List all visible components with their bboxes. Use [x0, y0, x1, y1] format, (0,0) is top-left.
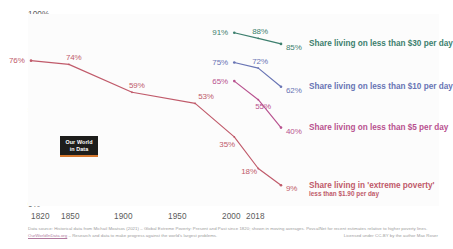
x-axis-tick-1950: 1950 — [168, 212, 187, 221]
series-vertex-marker — [257, 168, 259, 170]
footer-data-source: Data source: Historical data from Michai… — [28, 226, 438, 233]
series-vertex-marker — [257, 99, 259, 101]
data-point-label: 9% — [286, 184, 297, 193]
series-end-annotation-label: Share living on less than $5 per day — [309, 123, 448, 132]
data-point-label: 65% — [212, 77, 228, 86]
series-endpoint-marker — [233, 80, 236, 83]
series-end-annotation: Share living on less than $10 per day — [309, 82, 453, 91]
series-endpoint-marker — [280, 126, 283, 129]
x-axis-tick-2018: 2018 — [246, 212, 265, 221]
data-point-label: 75% — [212, 58, 228, 67]
x-axis-tick-1820: 1820 — [31, 212, 50, 221]
series-vertex-marker — [131, 91, 133, 93]
footer-second-line: OurWorldInData.org – Research and data t… — [28, 233, 438, 240]
series-endpoint-marker — [30, 59, 33, 62]
x-axis-tick-1900: 1900 — [114, 212, 133, 221]
logo-line-1: Our World — [65, 139, 92, 146]
data-point-label: 18% — [241, 167, 257, 176]
series-endpoint-marker — [280, 43, 283, 46]
series-vertex-marker — [233, 136, 235, 138]
data-point-label: 62% — [286, 86, 302, 95]
footer-license: Licensed under CC-BY by the author Max R… — [344, 233, 438, 240]
data-point-label: 35% — [219, 140, 235, 149]
data-point-label: 53% — [198, 92, 214, 101]
data-point-label: 40% — [286, 127, 302, 136]
series-end-annotation-label: Share living on less than $30 per day — [309, 39, 453, 48]
data-point-label: 59% — [129, 81, 145, 90]
data-point-label: 74% — [66, 53, 82, 62]
series-vertex-marker — [257, 67, 259, 69]
series-endpoint-marker — [280, 184, 283, 187]
series-endpoint-marker — [233, 31, 236, 34]
logo-line-2: in Data — [70, 146, 89, 153]
series-end-annotation-sublabel: less than $1.90 per day — [309, 190, 434, 197]
footer-attribution: OurWorldInData.org – Research and data t… — [28, 233, 217, 240]
our-world-in-data-logo: Our World in Data — [60, 136, 98, 157]
series-end-annotation: Share living on less than $5 per day — [309, 123, 448, 132]
series-end-annotation: Share living in 'extreme poverty'less th… — [309, 181, 434, 198]
data-point-label: 85% — [286, 43, 302, 52]
series-vertex-marker — [257, 37, 259, 39]
series-vertex-marker — [68, 63, 70, 65]
series-vertex-marker — [194, 103, 196, 105]
x-axis-tick-1850: 1850 — [61, 212, 80, 221]
series-end-annotation-label: Share living on less than $10 per day — [309, 82, 453, 91]
data-point-label: 72% — [252, 57, 268, 66]
data-point-label: 55% — [255, 102, 271, 111]
series-end-annotation-label: Share living in 'extreme poverty' — [309, 181, 434, 190]
series-endpoint-marker — [233, 61, 236, 64]
series-end-annotation: Share living on less than $30 per day — [309, 39, 453, 48]
data-point-label: 76% — [9, 56, 25, 65]
footer: Data source: Historical data from Michai… — [28, 226, 438, 239]
series-endpoint-marker — [280, 85, 283, 88]
owid-website-link[interactable]: OurWorldInData.org — [28, 233, 67, 238]
footer-tagline: – Research and data to make progress aga… — [67, 233, 217, 238]
data-point-label: 91% — [212, 28, 228, 37]
data-point-label: 88% — [252, 27, 268, 36]
x-axis-tick-2000: 2000 — [222, 212, 241, 221]
series-line — [234, 63, 281, 87]
